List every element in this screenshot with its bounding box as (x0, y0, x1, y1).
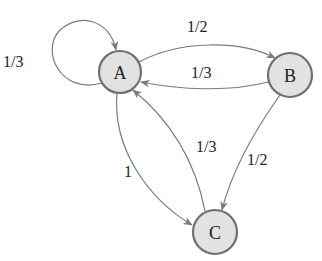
edge-a-c (117, 93, 192, 225)
node-a: A (99, 51, 141, 93)
node-b-label: B (284, 66, 296, 86)
label-c-a: 1/3 (196, 138, 216, 155)
label-a-b: 1/2 (187, 18, 207, 35)
node-c-label: C (209, 223, 221, 243)
edge-b-a (141, 82, 268, 89)
label-b-c: 1/2 (247, 151, 267, 168)
node-a-label: A (114, 63, 127, 83)
node-b: B (268, 53, 312, 97)
node-c: C (193, 210, 237, 254)
label-a-c: 1 (124, 163, 132, 180)
edge-a-b (139, 45, 275, 62)
edge-c-a (133, 90, 205, 211)
label-b-a: 1/3 (191, 64, 211, 81)
markov-diagram: 1/3 1/2 1/3 1/2 1/3 1 A B C (0, 0, 322, 261)
label-a-a: 1/3 (3, 53, 23, 70)
